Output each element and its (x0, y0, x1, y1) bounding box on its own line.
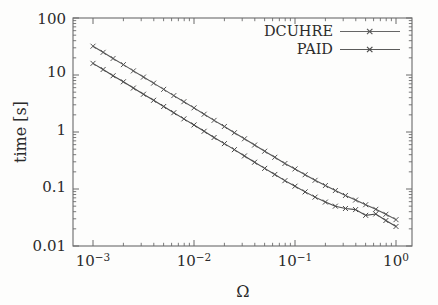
x-tick-label-1: 10−2 (177, 251, 212, 270)
legend-sample-dcuhre (340, 29, 400, 34)
data-series-group (91, 44, 399, 229)
data-point-marker (303, 189, 308, 194)
data-point-marker (373, 207, 378, 212)
chart-canvas: 10−3 10−2 10−1 100 100 10 1 0.1 0.01 Ω t… (0, 0, 438, 305)
data-point-marker (131, 86, 136, 91)
data-point-marker (242, 136, 247, 141)
data-point-marker (121, 79, 126, 84)
data-point-marker (293, 166, 298, 171)
data-point-marker (242, 153, 247, 158)
data-point-marker (151, 98, 156, 103)
legend: DCUHRE PAID (264, 23, 400, 57)
plot-frame (73, 18, 412, 246)
x-tick-label-3: 100 (383, 251, 409, 270)
y-tick-label-1: 10 (47, 63, 66, 81)
data-point-marker (202, 112, 207, 117)
data-point-marker (212, 135, 217, 140)
series-line (93, 46, 396, 219)
data-point-marker (161, 104, 166, 109)
data-point-marker (181, 99, 186, 104)
data-point-marker (192, 122, 197, 127)
data-point-marker (101, 50, 106, 55)
data-point-marker (252, 160, 257, 165)
data-point-marker (141, 92, 146, 97)
data-point-marker (303, 172, 308, 177)
data-point-marker (353, 198, 358, 203)
data-point-marker (272, 155, 277, 160)
data-point-marker (333, 188, 338, 193)
data-point-marker (232, 147, 237, 152)
x-axis-title: Ω (236, 282, 249, 301)
legend-label-dcuhre: DCUHRE (264, 23, 333, 39)
data-point-marker (192, 105, 197, 110)
data-point-marker (272, 172, 277, 177)
data-point-marker (151, 81, 156, 86)
data-point-marker (101, 67, 106, 72)
data-point-marker (222, 124, 227, 129)
data-point-marker (394, 217, 399, 222)
data-point-marker (383, 218, 388, 223)
data-point-marker (383, 212, 388, 217)
data-point-marker (323, 183, 328, 188)
data-point-marker (202, 129, 207, 134)
data-point-marker (131, 68, 136, 73)
series-paid (91, 61, 399, 229)
data-point-marker (161, 87, 166, 92)
y-tick-label-4: 0.01 (33, 237, 66, 255)
series-line (93, 63, 396, 226)
x-tick-label-0: 10−3 (76, 251, 111, 270)
data-point-marker (141, 75, 146, 80)
x-tick-label-2: 10−1 (278, 251, 313, 270)
data-point-marker (252, 143, 257, 148)
data-point-marker (121, 62, 126, 67)
data-point-marker (282, 161, 287, 166)
data-point-marker (91, 61, 96, 66)
y-axis-title: time [s] (11, 101, 30, 163)
x-tick-labels: 10−3 10−2 10−1 100 (76, 251, 409, 270)
data-point-marker (343, 193, 348, 198)
data-point-marker (222, 141, 227, 146)
y-tick-labels: 100 10 1 0.1 0.01 (33, 10, 66, 255)
data-point-marker (313, 195, 318, 200)
data-point-marker (323, 200, 328, 205)
data-point-marker (111, 56, 116, 61)
data-point-marker (262, 166, 267, 171)
axis-ticks (73, 18, 412, 246)
data-point-marker (91, 44, 96, 49)
y-tick-label-2: 1 (56, 121, 66, 139)
y-tick-label-0: 100 (37, 10, 66, 28)
data-point-marker (282, 178, 287, 183)
y-tick-label-3: 0.1 (42, 178, 66, 196)
data-point-marker (111, 73, 116, 78)
legend-sample-paid (340, 47, 400, 52)
data-point-marker (232, 130, 237, 135)
data-point-marker (171, 93, 176, 98)
data-point-marker (262, 149, 267, 154)
chart-figure: 10−3 10−2 10−1 100 100 10 1 0.1 0.01 Ω t… (0, 0, 438, 305)
data-point-marker (171, 110, 176, 115)
legend-label-paid: PAID (297, 41, 333, 57)
data-point-marker (293, 184, 298, 189)
data-point-marker (313, 178, 318, 183)
series-dcuhre (91, 44, 399, 222)
data-point-marker (394, 224, 399, 229)
data-point-marker (363, 202, 368, 207)
data-point-marker (181, 116, 186, 121)
data-point-marker (212, 118, 217, 123)
